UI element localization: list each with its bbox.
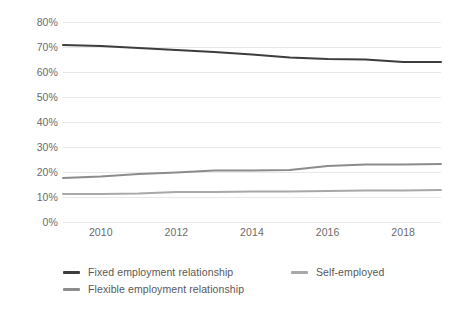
x-axis: 20102012201420162018 [63, 226, 441, 244]
x-tick-label: 2018 [391, 226, 415, 238]
x-tick-label: 2010 [89, 226, 113, 238]
legend-label: Self-employed [316, 266, 384, 278]
legend-row-1: Fixed employment relationship Self-emplo… [63, 266, 443, 283]
legend-swatch-icon [291, 271, 308, 274]
series-line [63, 164, 441, 178]
y-tick-label: 60% [12, 67, 58, 77]
y-tick-label: 40% [12, 117, 58, 127]
y-tick-label: 10% [12, 192, 58, 202]
legend-item-fixed-employment-relationship[interactable]: Fixed employment relationship [63, 266, 233, 278]
y-tick-label: 20% [12, 167, 58, 177]
y-tick-label: 70% [12, 42, 58, 52]
series-line [63, 45, 441, 62]
plot-area [63, 22, 441, 222]
y-tick-label: 50% [12, 92, 58, 102]
gridline [63, 222, 441, 223]
x-tick-label: 2014 [240, 226, 264, 238]
legend-swatch-icon [63, 288, 80, 291]
legend-label: Fixed employment relationship [88, 266, 233, 278]
x-tick-label: 2012 [165, 226, 189, 238]
y-tick-label: 80% [12, 17, 58, 27]
legend-swatch-icon [63, 271, 80, 274]
series-lines [63, 22, 441, 222]
line-chart: 0%10%20%30%40%50%60%70%80% 2010201220142… [0, 0, 457, 309]
x-tick-label: 2016 [316, 226, 340, 238]
y-tick-label: 30% [12, 142, 58, 152]
y-tick-label: 0% [12, 217, 58, 227]
series-line [63, 190, 441, 194]
legend-row-2: Flexible employment relationship [63, 283, 443, 300]
legend-item-self-employed[interactable]: Self-employed [291, 266, 384, 278]
chart-legend: Fixed employment relationship Self-emplo… [63, 266, 443, 300]
legend-item-flexible-employment-relationship[interactable]: Flexible employment relationship [63, 283, 244, 295]
legend-label: Flexible employment relationship [88, 283, 244, 295]
y-axis: 0%10%20%30%40%50%60%70%80% [6, 22, 58, 222]
